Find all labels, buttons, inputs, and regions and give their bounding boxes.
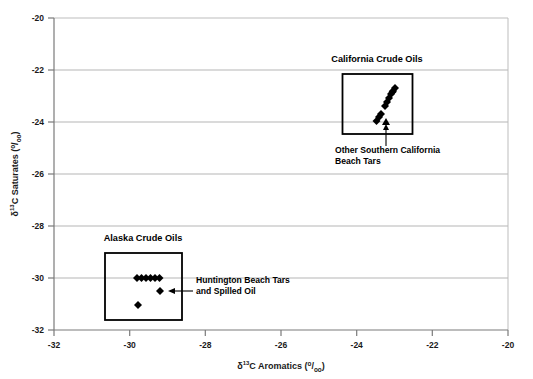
y-axis-tick-labels: -20 -22 -24 -26 -28 -30 -32	[32, 13, 45, 335]
xtick-label-20: -20	[502, 340, 515, 350]
x-title-close: )	[322, 361, 325, 371]
other-beach-tars-label-line2: Beach Tars	[335, 156, 381, 166]
xtick-label-26: -26	[275, 340, 288, 350]
xtick-label-28: -28	[199, 340, 212, 350]
xtick-label-30: -30	[124, 340, 137, 350]
ytick-label-26: -26	[32, 169, 45, 179]
y-title-permil-den: oo	[15, 134, 22, 142]
x-axis-title: δ13C Aromatics (o/oo)	[237, 360, 325, 373]
y-title-close: )	[10, 132, 20, 135]
xtick-label-22: -22	[426, 340, 439, 350]
ytick-label-28: -28	[32, 221, 45, 231]
huntington-beach-tars-label-line2: and Spilled Oil	[196, 286, 256, 296]
california-crude-oils-label: California Crude Oils	[331, 54, 422, 64]
alaska-crude-oils-label: Alaska Crude Oils	[104, 233, 183, 243]
xtick-label-32: -32	[48, 340, 61, 350]
x-axis-ticks	[54, 330, 508, 336]
x-title-mid: C Aromatics (	[249, 361, 307, 371]
ytick-label-24: -24	[32, 117, 45, 127]
ytick-label-30: -30	[32, 273, 45, 283]
chart-svg: -20 -22 -24 -26 -28 -30 -32 -32 -30 -28 …	[0, 0, 533, 379]
ytick-label-20: -20	[32, 13, 45, 23]
scatter-chart-figure: -20 -22 -24 -26 -28 -30 -32 -32 -30 -28 …	[0, 0, 533, 379]
xtick-label-24: -24	[351, 340, 364, 350]
ytick-label-22: -22	[32, 65, 45, 75]
y-axis-ticks	[48, 18, 54, 330]
y-axis-title: δ13C Saturates (o/oo)	[9, 132, 22, 217]
x-title-permil-den: oo	[314, 366, 322, 373]
x-axis-tick-labels: -32 -30 -28 -26 -24 -22 -20	[48, 340, 515, 350]
huntington-beach-tars-label-line1: Huntington Beach Tars	[196, 275, 290, 285]
ytick-label-32: -32	[32, 325, 45, 335]
y-title-mid: C Saturates (	[10, 149, 20, 205]
other-beach-tars-label-line1: Other Southern California	[335, 145, 440, 155]
